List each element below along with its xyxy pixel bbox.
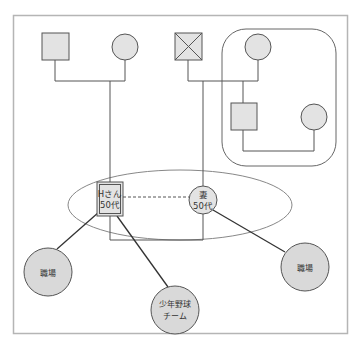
client-double-square-icon [97,182,123,216]
sibling-square-icon [231,103,257,130]
client-label-age: 50代 [100,200,120,210]
wife-label-age: 50代 [193,201,213,211]
resource-workplace-wife-label: 職場 [297,263,313,273]
sibling-spouse-circle-icon [301,104,327,130]
maternal-father-deceased-icon [175,33,202,60]
paternal-father-square-icon [42,33,69,60]
client-label-name: Hさん [98,189,122,199]
resource-youth-baseball-label-line1: 少年野球 [159,299,191,309]
maternal-mother-circle-icon [245,34,271,60]
household-boundary [222,29,336,166]
paternal-marriage-line [55,60,125,183]
ecomap-diagram: Hさん 50代 妻 50代 職場 少年野球 チーム 職場 [0,0,360,348]
resource-youth-baseball-label-line2: チーム [163,312,187,321]
sibling-marriage-line [243,130,314,151]
resource-workplace-client-label: 職場 [40,268,56,278]
resource-connectors [57,210,285,287]
paternal-mother-circle-icon [112,34,138,60]
resource-youth-baseball [151,286,199,334]
couple-marriage-line [110,214,203,240]
wife-label-name: 妻 [199,190,208,200]
